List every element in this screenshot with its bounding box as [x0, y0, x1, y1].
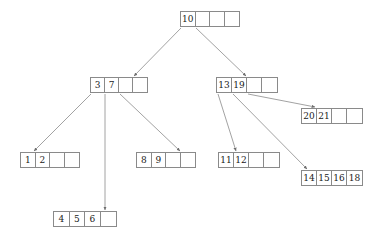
node-cell-key: 21 — [317, 109, 332, 123]
node-cell-key: 5 — [70, 212, 86, 226]
node-cell-empty — [50, 153, 65, 167]
node-cell-key: 9 — [152, 153, 167, 167]
node-cell-key: 1 — [21, 153, 36, 167]
btree-diagram-canvas: 1037131912456891112202114151618 — [0, 0, 382, 247]
node-cell-empty — [247, 78, 262, 92]
node-cell-key: 2 — [36, 153, 51, 167]
leaf-node-1-2[interactable]: 12 — [20, 152, 80, 168]
edge-root-to-internal-left — [134, 28, 181, 76]
node-cell-empty — [101, 212, 116, 226]
node-cell-key: 7 — [105, 78, 119, 92]
leaf-node-14-15-16-18[interactable]: 14151618 — [301, 170, 363, 186]
leaf-node-8-9[interactable]: 89 — [136, 152, 196, 168]
node-cell-key: 11 — [219, 153, 234, 167]
node-cell-key: 10 — [181, 12, 196, 26]
node-cell-empty — [262, 78, 277, 92]
root-node[interactable]: 10 — [180, 11, 240, 27]
node-cell-empty — [347, 109, 362, 123]
node-cell-empty — [225, 12, 239, 26]
node-cell-key: 12 — [234, 153, 249, 167]
node-cell-empty — [264, 153, 279, 167]
node-cell-empty — [65, 153, 79, 167]
node-cell-empty — [249, 153, 264, 167]
node-cell-key: 13 — [217, 78, 232, 92]
edge-left-to-leaf-1-2 — [34, 94, 91, 151]
node-cell-empty — [210, 12, 225, 26]
edge-left-to-leaf-8-9 — [120, 94, 180, 151]
node-cell-empty — [119, 78, 133, 92]
leaf-node-4-5-6[interactable]: 456 — [53, 211, 117, 227]
node-cell-key: 3 — [91, 78, 105, 92]
node-cell-empty — [133, 78, 147, 92]
node-cell-key: 14 — [302, 171, 317, 185]
edge-right-to-leaf-20-21 — [248, 94, 315, 107]
node-cell-empty — [196, 12, 211, 26]
internal-node-right[interactable]: 1319 — [216, 77, 278, 93]
node-cell-empty — [166, 153, 181, 167]
node-cell-key: 16 — [332, 171, 347, 185]
edge-right-to-leaf-11-12 — [218, 94, 236, 151]
leaf-node-20-21[interactable]: 2021 — [301, 108, 363, 124]
node-cell-key: 19 — [232, 78, 247, 92]
node-cell-key: 20 — [302, 109, 317, 123]
node-cell-empty — [332, 109, 347, 123]
node-cell-empty — [181, 153, 195, 167]
node-cell-key: 15 — [317, 171, 332, 185]
leaf-node-11-12[interactable]: 1112 — [218, 152, 280, 168]
node-cell-key: 8 — [137, 153, 152, 167]
internal-node-left[interactable]: 37 — [90, 77, 148, 93]
node-cell-key: 4 — [54, 212, 70, 226]
node-cell-key: 6 — [85, 212, 101, 226]
node-cell-key: 18 — [347, 171, 362, 185]
tree-edges — [34, 28, 315, 210]
edge-root-to-internal-right — [196, 28, 246, 76]
